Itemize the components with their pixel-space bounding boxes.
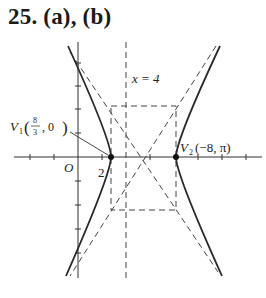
- origin-label: O: [64, 160, 74, 175]
- vertex-2-label: V 2 (−8, π): [180, 140, 231, 157]
- vertex-1-point: [108, 154, 114, 160]
- hyperbola-diagram: O 2 x = 4 V 1 ( 8 3 , 0 ) V 2 (−8, π): [0, 0, 266, 298]
- svg-text:, 0: , 0: [42, 120, 54, 134]
- svg-text:1: 1: [19, 127, 23, 136]
- svg-text:3: 3: [33, 128, 37, 137]
- svg-text:(: (: [24, 118, 30, 137]
- directrix-label: x = 4: [131, 71, 160, 86]
- vertex-2-point: [173, 154, 179, 160]
- vertex-1-label: V 1 ( 8 3 , 0 ): [10, 116, 68, 137]
- svg-text:8: 8: [33, 116, 37, 125]
- vertex-1-leader: [70, 132, 108, 155]
- svg-text:2: 2: [189, 148, 193, 157]
- svg-text:(−8, π): (−8, π): [195, 140, 231, 155]
- right-branch: [176, 46, 222, 276]
- x-tick-label: 2: [98, 165, 105, 180]
- svg-text:): ): [62, 118, 68, 137]
- axis-ticks: [30, 63, 246, 253]
